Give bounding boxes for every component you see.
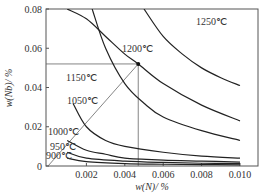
curve-label: 1000℃ (48, 126, 79, 137)
y-tick-label: 0.04 (25, 82, 43, 93)
curve-label: 1050℃ (67, 95, 98, 106)
plot-frame (46, 9, 258, 166)
curve-1150℃ (92, 9, 240, 140)
x-axis-label: w(N)/ % (135, 181, 169, 193)
marker-point (136, 62, 140, 66)
x-tick-label: 0.006 (152, 169, 175, 180)
curve-label: 1200℃ (122, 43, 153, 54)
x-tick-label: 0.008 (190, 169, 213, 180)
curve-label: 1150℃ (66, 72, 97, 83)
x-tick-label: 0.002 (75, 169, 98, 180)
y-tick-label: 0.08 (25, 4, 43, 15)
x-tick-label: 0.010 (229, 169, 252, 180)
y-tick-label: 0 (37, 161, 42, 172)
y-tick-label: 0.06 (25, 43, 43, 54)
chart: 00.020.040.060.080.0020.0040.0060.0080.0… (0, 0, 263, 194)
curve-label: 900℃ (46, 150, 72, 161)
y-tick-label: 0.02 (25, 121, 43, 132)
x-tick-label: 0.004 (114, 169, 137, 180)
y-axis-label: w(Nb)/ % (3, 69, 15, 108)
curve-label: 1250℃ (196, 16, 227, 27)
